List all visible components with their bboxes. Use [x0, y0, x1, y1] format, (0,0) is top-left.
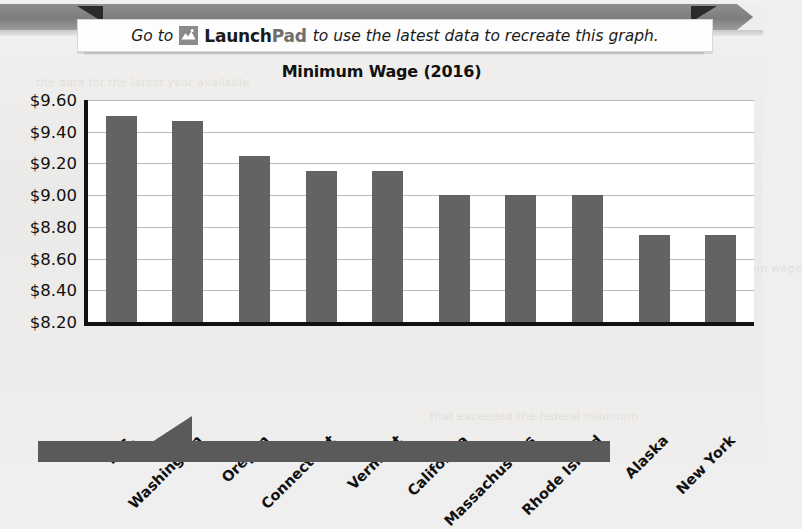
brand-launch: Launch — [204, 26, 272, 46]
y-axis-tick-label: $8.80 — [5, 218, 77, 237]
bar[interactable] — [172, 121, 203, 322]
bar[interactable] — [572, 195, 603, 322]
y-axis-tick-label: $8.20 — [5, 313, 77, 332]
bar[interactable] — [239, 156, 270, 323]
bar[interactable] — [306, 171, 337, 322]
bar[interactable] — [372, 171, 403, 322]
bar[interactable] — [705, 235, 736, 322]
background-ghost-text-3: that exceeded the federal minimum — [430, 410, 638, 423]
y-axis-tick-label: $8.40 — [5, 281, 77, 300]
y-axis-tick-label: $9.20 — [5, 154, 77, 173]
chart-title: Minimum Wage (2016) — [0, 62, 763, 81]
launchpad-mountain-icon[interactable] — [179, 26, 198, 45]
bar[interactable] — [439, 195, 470, 322]
y-axis-tick-label: $9.00 — [5, 186, 77, 205]
bar[interactable] — [106, 116, 137, 322]
y-axis-tick-label: $9.40 — [5, 123, 77, 142]
banner-text: Go to LaunchPad to use the latest data t… — [131, 26, 658, 46]
brand-pad: Pad — [272, 26, 307, 46]
y-axis-tick-label: $9.60 — [5, 91, 77, 110]
y-axis-tick-label: $8.60 — [5, 250, 77, 269]
ribbon-card[interactable]: Go to LaunchPad to use the latest data t… — [77, 19, 713, 52]
bar-chart: $9.60$9.40$9.20$9.00$8.80$8.60$8.40$8.20… — [0, 88, 763, 338]
gridline — [88, 100, 754, 101]
bottom-callout-box — [38, 441, 610, 462]
bar[interactable] — [639, 235, 670, 322]
banner-text-before: Go to — [131, 27, 173, 45]
bar[interactable] — [505, 195, 536, 322]
plot-area — [84, 100, 754, 326]
launchpad-brand: LaunchPad — [204, 26, 307, 46]
banner-text-after: to use the latest data to recreate this … — [313, 27, 659, 45]
